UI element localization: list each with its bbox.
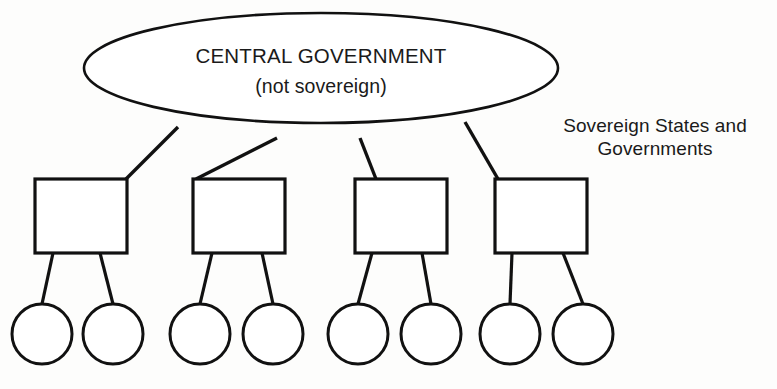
central-government-title: CENTRAL GOVERNMENT <box>195 44 446 67</box>
connector-trunk-2 <box>196 138 277 179</box>
connector-state-2-to-local-4 <box>262 253 273 304</box>
local-circle-local-7[interactable] <box>480 304 540 364</box>
central-government-ellipse[interactable] <box>84 13 558 123</box>
connector-state-3-to-local-5 <box>358 253 372 304</box>
leg-connectors-group <box>42 253 583 304</box>
central-government-subtitle: (not sovereign) <box>255 75 387 97</box>
connector-state-1-to-local-2 <box>100 253 113 304</box>
local-circle-local-4[interactable] <box>243 304 303 364</box>
sovereign-states-label-line1: Sovereign States and <box>563 115 747 136</box>
local-circle-local-1[interactable] <box>12 304 72 364</box>
local-circle-local-3[interactable] <box>170 304 230 364</box>
state-box-state-2[interactable] <box>193 179 285 253</box>
trunk-connectors-group <box>126 122 498 179</box>
local-circle-local-8[interactable] <box>553 304 613 364</box>
state-box-state-1[interactable] <box>35 179 127 253</box>
federal-structure-diagram: CENTRAL GOVERNMENT (not sovereign) Sover… <box>0 0 777 389</box>
connector-state-3-to-local-6 <box>422 253 431 304</box>
state-boxes-group <box>35 179 587 253</box>
local-circles-group <box>12 304 613 364</box>
local-circle-local-2[interactable] <box>83 304 143 364</box>
connector-trunk-3 <box>360 138 376 179</box>
connector-state-4-to-local-7 <box>510 253 512 304</box>
state-box-state-4[interactable] <box>495 179 587 253</box>
connector-trunk-1 <box>126 127 178 179</box>
sovereign-states-label-line2: Governments <box>597 138 712 159</box>
connector-trunk-4 <box>465 122 498 179</box>
connector-state-2-to-local-3 <box>200 253 212 304</box>
state-box-state-3[interactable] <box>355 179 447 253</box>
connector-state-1-to-local-1 <box>42 253 53 304</box>
connector-state-4-to-local-8 <box>563 253 583 304</box>
diagram-root: CENTRAL GOVERNMENT (not sovereign) Sover… <box>0 0 777 389</box>
local-circle-local-6[interactable] <box>401 304 461 364</box>
local-circle-local-5[interactable] <box>328 304 388 364</box>
